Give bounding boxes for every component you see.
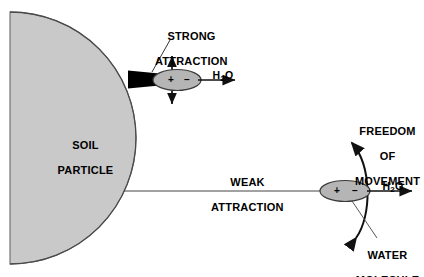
diagram-canvas: + – + – STRONG ATTRACTION SOIL PARTICLE … (0, 0, 424, 277)
h2o-top-label: H2O (200, 57, 240, 97)
h2o-bottom-label: H2O (370, 168, 410, 208)
weak-attraction-label: WEAK ATTRACTION (186, 163, 296, 226)
water-molecule-label: WATER MOLECULE (338, 236, 424, 277)
soil-particle-label: SOIL PARTICLE (24, 126, 134, 189)
